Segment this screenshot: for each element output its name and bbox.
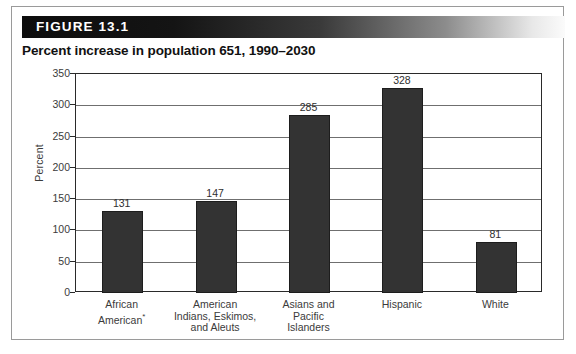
y-axis-tick-mark: [70, 167, 75, 168]
x-axis-category-line: African: [98, 299, 145, 311]
bar: [102, 211, 143, 293]
y-axis-tick-label: 200: [40, 161, 70, 173]
x-axis-category-label: Asians andPacificIslanders: [283, 299, 335, 334]
x-axis-category-line: Hispanic: [382, 299, 422, 311]
bar: [196, 201, 237, 293]
bar-value-label: 81: [489, 228, 501, 240]
y-axis-tick-labels: 050100150200250300350: [37, 73, 70, 292]
x-axis-category-line: American: [174, 299, 256, 311]
y-axis-tick-mark: [70, 136, 75, 137]
y-axis-tick-label: 0: [40, 286, 70, 298]
y-axis-tick-label: 100: [40, 223, 70, 235]
y-axis-tick-label: 250: [40, 130, 70, 142]
bar: [382, 88, 423, 293]
y-axis-tick-label: 350: [40, 67, 70, 79]
x-axis-category-line: and Aleuts: [174, 322, 256, 334]
bar: [289, 115, 330, 293]
y-axis-tick-mark: [70, 104, 75, 105]
y-axis-tick-label: 300: [40, 98, 70, 110]
figure-card: FIGURE 13.1 Percent increase in populati…: [11, 6, 564, 340]
x-axis-category-line: American*: [98, 311, 145, 326]
y-axis-tick-label: 50: [40, 255, 70, 267]
chart-plot-wrapper: Percent 050100150200250300350 1311472853…: [12, 7, 565, 341]
x-axis-category-line: Islanders: [283, 322, 335, 334]
y-axis-tick-mark: [70, 198, 75, 199]
y-axis-tick-mark: [70, 292, 75, 293]
y-axis-tick-mark: [70, 261, 75, 262]
bar-value-label: 285: [300, 101, 318, 113]
bar-value-label: 328: [393, 74, 411, 86]
bar-value-label: 131: [113, 197, 131, 209]
x-axis-category-label: AfricanAmerican*: [98, 299, 145, 326]
y-axis-tick-label: 150: [40, 192, 70, 204]
bar: [476, 242, 517, 293]
x-axis-category-label: Hispanic: [382, 299, 422, 311]
x-axis-category-line: White: [482, 299, 509, 311]
x-axis-category-line: Asians and: [283, 299, 335, 311]
y-axis-tick-mark: [70, 229, 75, 230]
bar-value-label: 147: [206, 187, 224, 199]
y-axis-tick-mark: [70, 73, 75, 74]
x-axis-category-label: AmericanIndians, Eskimos,and Aleuts: [174, 299, 256, 334]
x-axis-category-label: White: [482, 299, 509, 311]
